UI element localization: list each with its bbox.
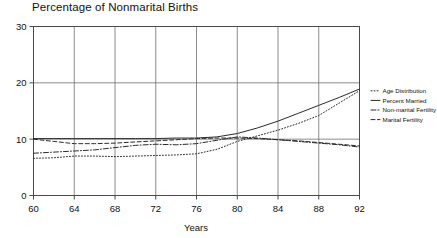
legend-label-2: Non-marital Fertility bbox=[383, 106, 437, 113]
plot-area: 0102030 606468727680848892 Years Age Dis… bbox=[0, 0, 437, 238]
y-tick-label: 20 bbox=[16, 77, 27, 88]
x-tick-label: 76 bbox=[191, 203, 202, 214]
gridlines bbox=[34, 27, 360, 196]
x-axis-label: Years bbox=[184, 222, 208, 233]
legend-label-0: Age Distribution bbox=[383, 87, 427, 94]
y-tick-label: 0 bbox=[21, 190, 26, 201]
y-tick-label: 30 bbox=[16, 21, 27, 32]
x-tick-label: 72 bbox=[150, 203, 161, 214]
tick-marks bbox=[30, 27, 360, 200]
chart-legend: Age DistributionPercent MarriedNon-marit… bbox=[371, 87, 437, 123]
x-tick-label: 88 bbox=[313, 203, 324, 214]
x-tick-label: 64 bbox=[69, 203, 80, 214]
legend-label-1: Percent Married bbox=[383, 97, 428, 104]
x-tick-label: 68 bbox=[110, 203, 121, 214]
x-tick-labels: 606468727680848892 bbox=[28, 203, 365, 214]
x-tick-label: 84 bbox=[273, 203, 284, 214]
y-tick-labels: 0102030 bbox=[16, 21, 27, 201]
legend-label-3: Marital Fertility bbox=[383, 116, 424, 123]
chart-svg: 0102030 606468727680848892 Years Age Dis… bbox=[0, 0, 437, 238]
x-tick-label: 60 bbox=[28, 203, 39, 214]
x-tick-label: 92 bbox=[354, 203, 365, 214]
y-tick-label: 10 bbox=[16, 134, 27, 145]
x-tick-label: 80 bbox=[232, 203, 243, 214]
chart-page: Percentage of Nonmarital Births 0102030 … bbox=[0, 0, 437, 238]
